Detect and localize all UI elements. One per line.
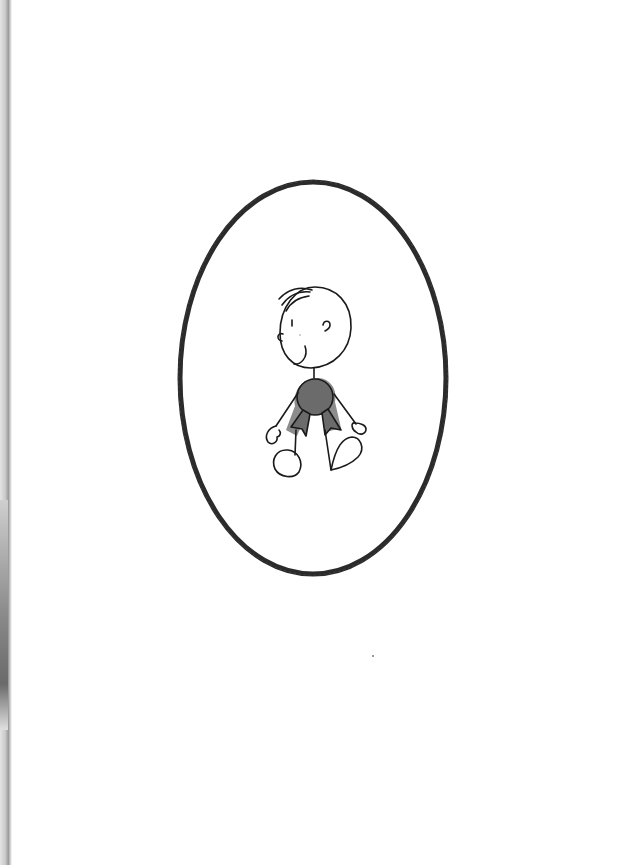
oval-frame <box>179 181 448 575</box>
head <box>280 287 351 368</box>
cartoon-child <box>266 287 366 477</box>
illustration <box>0 0 631 865</box>
scan-speck <box>372 655 374 657</box>
